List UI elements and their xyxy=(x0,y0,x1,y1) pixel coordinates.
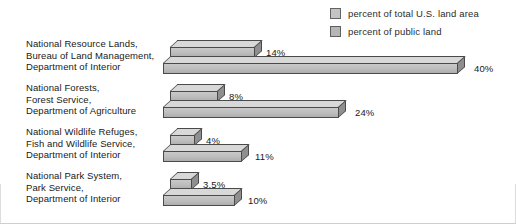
bar-group-label-line: Department of Agriculture xyxy=(26,105,158,117)
bar-top-face xyxy=(170,40,263,47)
figure-border-left xyxy=(0,184,1,224)
bar-public-land xyxy=(163,144,242,155)
bar-group-label-line: National Forests, xyxy=(26,82,158,94)
legend-swatch-icon-total-land-area xyxy=(330,8,341,19)
bar-group-label-line: Department of Interior xyxy=(26,61,158,73)
bar-group-label-line: Fish and Wildlife Service, xyxy=(26,138,158,150)
bar-group-label: National Wildlife Refuges, Fish and Wild… xyxy=(26,126,158,161)
bar-group-national-forests: National Forests, Forest Service, Depart… xyxy=(0,82,516,126)
bar-top-face xyxy=(163,56,466,63)
bar-group-label-line: Department of Interior xyxy=(26,193,158,205)
bar-group-national-park-system: National Park System, Park Service, Depa… xyxy=(0,170,516,214)
bar-public-land xyxy=(163,188,235,199)
bar-total-land-area xyxy=(170,40,255,51)
bar-group-label-line: Department of Interior xyxy=(26,149,158,161)
bar-public-land xyxy=(163,100,339,111)
bar-value-label: 24% xyxy=(355,107,374,118)
bar-group-label-line: National Park System, xyxy=(26,170,158,182)
plot-area: National Resource Lands, Bureau of Land … xyxy=(0,38,516,218)
bar-group-label-line: Park Service, xyxy=(26,182,158,194)
chart-legend: percent of total U.S. land area percent … xyxy=(330,5,508,41)
legend-label-total-land-area: percent of total U.S. land area xyxy=(348,8,479,19)
bar-top-face xyxy=(163,144,250,151)
bar-group-label-line: National Resource Lands, xyxy=(26,38,158,50)
figure-border-bottom xyxy=(0,223,516,224)
bar-front-face xyxy=(163,63,458,74)
bar-group-label-line: Forest Service, xyxy=(26,94,158,106)
bar-group-label-line: National Wildlife Refuges, xyxy=(26,126,158,138)
bar-value-label: 10% xyxy=(248,195,267,206)
bar-top-face xyxy=(163,188,243,195)
legend-item-total-land-area: percent of total U.S. land area xyxy=(330,5,508,21)
bar-value-label: 11% xyxy=(255,151,274,162)
legend-label-public-land: percent of public land xyxy=(348,26,442,37)
bar-total-land-area xyxy=(170,84,218,95)
bar-chart-figure: percent of total U.S. land area percent … xyxy=(0,0,516,224)
legend-swatch-icon-public-land xyxy=(330,26,341,37)
bar-total-land-area xyxy=(170,128,195,139)
bar-group-label: National Park System, Park Service, Depa… xyxy=(26,170,158,205)
bar-total-land-area xyxy=(170,172,192,183)
bar-group-national-wildlife-refuges: National Wildlife Refuges, Fish and Wild… xyxy=(0,126,516,170)
bar-front-face xyxy=(163,195,235,206)
bar-group-national-resource-lands: National Resource Lands, Bureau of Land … xyxy=(0,38,516,82)
bar-top-face xyxy=(163,100,347,107)
legend-item-public-land: percent of public land xyxy=(330,23,508,39)
bar-value-label: 40% xyxy=(474,63,493,74)
bar-front-face xyxy=(163,151,242,162)
bar-public-land xyxy=(163,56,458,67)
bar-group-label: National Resource Lands, Bureau of Land … xyxy=(26,38,158,73)
bar-group-label: National Forests, Forest Service, Depart… xyxy=(26,82,158,117)
bar-group-label-line: Bureau of Land Management, xyxy=(26,50,158,62)
bar-front-face xyxy=(163,107,339,118)
